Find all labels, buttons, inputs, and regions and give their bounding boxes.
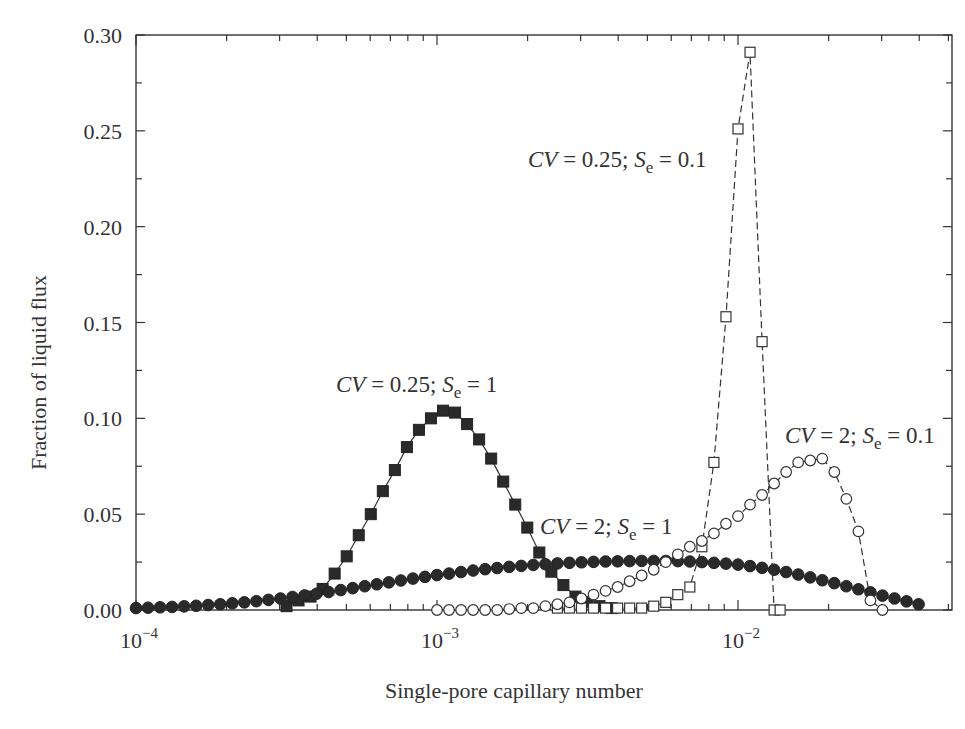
x-axis-title: Single-pore capillary number <box>385 678 643 703</box>
marker-filled-circle <box>335 584 347 596</box>
marker-open-square <box>649 601 659 611</box>
marker-filled-square <box>353 530 364 541</box>
marker-open-circle <box>564 597 575 608</box>
marker-filled-circle <box>913 598 925 610</box>
marker-filled-circle <box>395 575 407 587</box>
marker-filled-circle <box>491 562 503 574</box>
series-layer <box>130 47 924 615</box>
marker-open-circle <box>769 478 780 489</box>
y-tick-label: 0.15 <box>84 311 123 336</box>
y-tick-label: 0.30 <box>84 23 123 48</box>
marker-filled-circle <box>371 579 383 591</box>
marker-open-circle <box>492 605 503 616</box>
marker-open-circle <box>444 605 455 616</box>
marker-filled-square <box>425 413 436 424</box>
marker-open-circle <box>865 595 876 606</box>
y-axis-title: Fraction of liquid flux <box>26 275 51 470</box>
marker-filled-circle <box>768 564 780 576</box>
marker-filled-circle <box>142 602 154 614</box>
marker-filled-circle <box>178 601 190 613</box>
y-tick-label: 0.05 <box>84 502 123 527</box>
marker-filled-circle <box>467 565 479 577</box>
series-annotation: CV = 0.25; Se = 0.1 <box>528 147 707 177</box>
marker-open-square <box>601 603 611 613</box>
marker-open-square <box>637 603 647 613</box>
marker-filled-square <box>474 434 485 445</box>
marker-filled-circle <box>455 566 467 578</box>
marker-filled-circle <box>311 588 323 600</box>
marker-filled-circle <box>636 555 648 567</box>
marker-open-square <box>589 603 599 613</box>
marker-filled-circle <box>214 598 226 610</box>
marker-open-square <box>673 590 683 600</box>
marker-filled-circle <box>829 577 841 589</box>
marker-filled-circle <box>696 556 708 568</box>
series-annotation: CV = 0.25; Se = 1 <box>336 372 497 402</box>
marker-filled-circle <box>600 556 612 568</box>
marker-open-square <box>733 124 743 134</box>
marker-filled-circle <box>239 597 251 609</box>
marker-filled-circle <box>804 572 816 584</box>
marker-open-circle <box>673 549 684 560</box>
marker-open-circle <box>516 603 527 614</box>
marker-filled-circle <box>744 560 756 572</box>
marker-open-circle <box>877 605 888 616</box>
marker-open-square <box>685 582 695 592</box>
marker-filled-square <box>389 465 400 476</box>
marker-filled-circle <box>576 556 588 568</box>
marker-open-circle <box>588 589 599 600</box>
marker-open-circle <box>456 605 467 616</box>
marker-filled-circle <box>684 556 696 568</box>
marker-open-square <box>613 603 623 613</box>
marker-filled-circle <box>720 558 732 570</box>
marker-filled-circle <box>359 580 371 592</box>
marker-filled-circle <box>756 562 768 574</box>
marker-filled-circle <box>552 558 564 570</box>
marker-filled-circle <box>287 591 299 603</box>
marker-open-circle <box>841 494 852 505</box>
marker-open-circle <box>648 564 659 575</box>
marker-filled-circle <box>564 557 576 569</box>
marker-open-circle <box>528 603 539 614</box>
marker-filled-square <box>341 551 352 562</box>
marker-filled-circle <box>901 596 913 608</box>
marker-filled-circle <box>347 582 359 594</box>
marker-filled-circle <box>166 601 178 613</box>
y-tick-label: 0.20 <box>84 215 123 240</box>
marker-filled-square <box>498 476 509 487</box>
marker-open-circle <box>504 604 515 615</box>
marker-open-circle <box>432 605 443 616</box>
marker-filled-circle <box>431 569 443 581</box>
marker-open-square <box>709 457 719 467</box>
marker-filled-circle <box>263 594 275 606</box>
marker-filled-circle <box>732 559 744 571</box>
marker-open-circle <box>709 528 720 539</box>
marker-open-circle <box>757 490 768 501</box>
marker-filled-circle <box>154 602 166 614</box>
marker-filled-circle <box>383 577 395 589</box>
marker-open-circle <box>805 455 816 466</box>
marker-filled-square <box>377 486 388 497</box>
marker-open-square <box>661 597 671 607</box>
marker-open-circle <box>697 536 708 547</box>
marker-open-circle <box>468 605 479 616</box>
marker-open-circle <box>685 541 696 552</box>
x-tick-label: 10−3 <box>421 625 459 653</box>
marker-filled-circle <box>612 556 624 568</box>
marker-filled-square <box>522 522 533 533</box>
marker-filled-circle <box>407 573 419 585</box>
marker-filled-square <box>486 453 497 464</box>
marker-open-circle <box>612 582 623 593</box>
marker-filled-circle <box>503 561 515 573</box>
marker-filled-circle <box>528 559 540 571</box>
marker-filled-circle <box>275 593 287 605</box>
marker-filled-circle <box>780 566 792 578</box>
marker-filled-circle <box>853 584 865 596</box>
marker-open-square <box>775 605 785 615</box>
marker-filled-circle <box>588 556 600 568</box>
marker-open-square <box>721 312 731 322</box>
marker-open-circle <box>660 557 671 568</box>
marker-filled-circle <box>251 595 263 607</box>
marker-filled-square <box>401 442 412 453</box>
marker-filled-circle <box>841 580 853 592</box>
